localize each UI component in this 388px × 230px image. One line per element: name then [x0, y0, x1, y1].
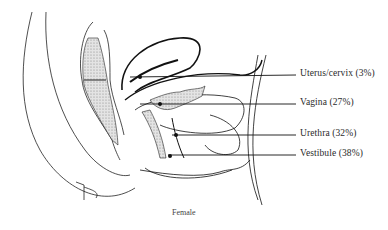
- figure-caption: Female: [172, 208, 196, 217]
- perineum: [140, 160, 250, 175]
- label-vestibule: Vestibule (38%): [300, 148, 363, 158]
- abdominal-wall-1: [248, 55, 258, 200]
- abdominal-wall-2: [253, 55, 266, 205]
- vagina-shaded: [142, 110, 166, 158]
- rectum-shaded: [83, 38, 118, 145]
- urethra-tube: [172, 118, 184, 158]
- bladder-shaded: [150, 86, 205, 110]
- marker-vestibule: [168, 154, 172, 158]
- label-uterus-cervix: Uterus/cervix (3%): [300, 68, 375, 78]
- label-vagina: Vagina (27%): [300, 97, 354, 107]
- anatomy-drawing: [0, 0, 388, 230]
- marker-urethra: [174, 133, 178, 137]
- uterus-cavity: [130, 60, 178, 82]
- body-outline-back: [23, 12, 135, 196]
- marker-vagina: [158, 102, 162, 106]
- marker-uterus-cervix: [138, 75, 142, 79]
- leader-uterus-cervix: [130, 75, 296, 77]
- label-urethra: Urethra (32%): [300, 128, 356, 138]
